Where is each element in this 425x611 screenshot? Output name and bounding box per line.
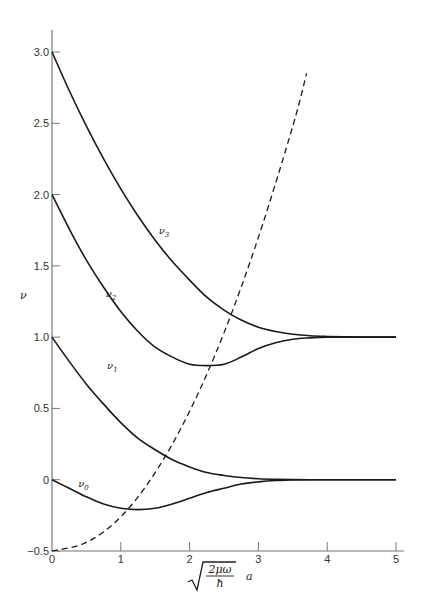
curve-label-nu3: ν3 xyxy=(159,225,170,239)
y-tick-label: −0.5 xyxy=(27,545,49,557)
y-tick-label: 0 xyxy=(43,474,49,486)
y-axis: −0.500.51.01.52.02.53.0 xyxy=(27,30,60,557)
x-tick-label: 0 xyxy=(49,553,55,565)
xlabel-numerator: 2μω xyxy=(207,563,231,576)
y-tick-label: 1.0 xyxy=(34,331,49,343)
curve-label-nu0: ν0 xyxy=(78,478,89,492)
curve-label-nu1: ν1 xyxy=(107,360,118,374)
curve-nu1 xyxy=(52,337,396,480)
curve-label-nu2: ν2 xyxy=(106,288,117,302)
curve-nu3 xyxy=(52,52,396,337)
y-tick-label: 2.5 xyxy=(34,117,49,129)
y-tick-label: 0.5 xyxy=(34,402,49,414)
x-tick-label: 1 xyxy=(118,553,124,565)
x-tick-label: 2 xyxy=(187,553,193,565)
x-axis-title: 2μωħa xyxy=(188,562,253,590)
y-tick-label: 2.0 xyxy=(34,189,49,201)
curve-nu0 xyxy=(52,480,396,510)
curve-nu2 xyxy=(52,195,396,366)
chart: −0.500.51.01.52.02.53.0 012345 ν3ν2ν1ν0 … xyxy=(0,0,425,611)
plot-curves xyxy=(52,52,396,551)
y-tick-label: 1.5 xyxy=(34,260,49,272)
x-tick-label: 4 xyxy=(324,553,330,565)
xlabel-denominator: ħ xyxy=(216,577,223,590)
y-tick-label: 3.0 xyxy=(34,46,49,58)
curve-labels: ν3ν2ν1ν0 xyxy=(78,225,170,491)
x-tick-label: 5 xyxy=(393,553,399,565)
y-axis-title: ν xyxy=(20,289,27,302)
x-tick-label: 3 xyxy=(255,553,261,565)
xlabel-suffix: a xyxy=(246,570,253,583)
